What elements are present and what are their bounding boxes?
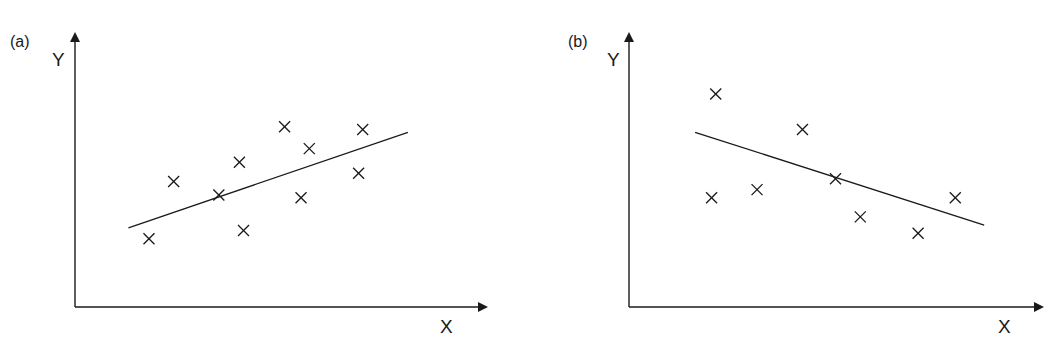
panel-a-points [143,121,368,244]
data-point-x-marker-icon [296,192,307,203]
data-point-x-marker-icon [752,184,763,195]
data-point-x-marker-icon [304,143,315,154]
data-point-x-marker-icon [238,225,249,236]
panel-b: (b) Y X [568,33,1042,337]
panel-b-points [706,89,961,239]
panel-b-label: (b) [568,33,588,50]
data-point-x-marker-icon [950,192,961,203]
data-point-x-marker-icon [143,233,154,244]
panel-a-label: (a) [10,33,30,50]
data-point-x-marker-icon [855,211,866,222]
panel-a-x-axis-label: X [440,316,453,337]
panel-a: (a) Y X [10,33,486,337]
figure-canvas: (a) Y X (b) Y X [0,0,1058,353]
data-point-x-marker-icon [234,157,245,168]
data-point-x-marker-icon [353,168,364,179]
data-point-x-marker-icon [706,192,717,203]
data-point-x-marker-icon [279,121,290,132]
data-point-x-marker-icon [797,124,808,135]
panel-b-regression-line [695,132,984,225]
data-point-x-marker-icon [913,228,924,239]
data-point-x-marker-icon [168,176,179,187]
panel-a-regression-line [128,132,407,228]
data-point-x-marker-icon [710,89,721,100]
panel-b-x-axis-label: X [998,316,1011,337]
panel-a-y-axis-label: Y [52,49,65,70]
data-point-x-marker-icon [357,124,368,135]
panel-b-y-axis-label: Y [607,49,620,70]
